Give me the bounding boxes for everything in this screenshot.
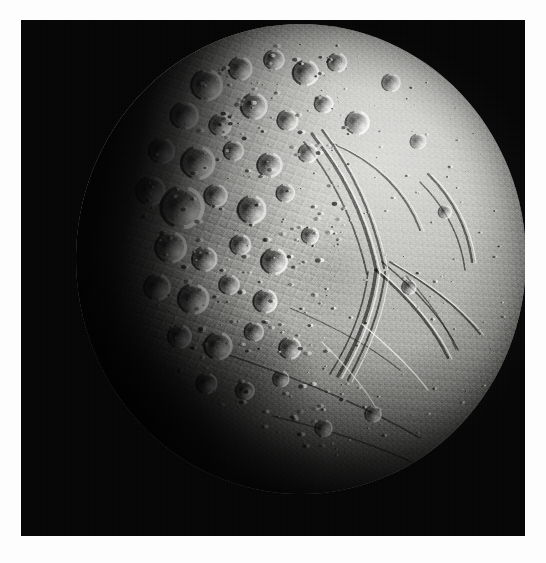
surface-knob-shadow: [251, 107, 253, 108]
surface-knob-shadow: [384, 210, 387, 212]
surface-knob-shadow: [164, 132, 165, 133]
surface-knob-shadow: [302, 443, 304, 445]
surface-knob-shadow: [338, 432, 339, 433]
surface-knob-shadow: [203, 167, 206, 169]
surface-knob-shadow: [213, 321, 214, 322]
surface-knob-shadow: [298, 347, 303, 351]
surface-knob-shadow: [407, 294, 409, 295]
surface-knob-shadow: [499, 341, 500, 342]
surface-knob-shadow: [245, 169, 249, 172]
surface-knob-shadow: [164, 254, 167, 256]
surface-knob-shadow: [338, 250, 339, 251]
surface-knob-shadow: [313, 232, 316, 235]
surface-knob-shadow: [228, 122, 233, 126]
surface-knob-shadow: [295, 334, 298, 336]
surface-knob-shadow: [451, 73, 453, 74]
surface-knob: [478, 95, 481, 98]
surface-knob-shadow: [403, 256, 405, 257]
surface-knob-shadow: [374, 177, 376, 178]
surface-knob-shadow: [401, 374, 403, 375]
surface-knob-shadow: [288, 283, 292, 286]
surface-knob-shadow: [456, 187, 458, 189]
surface-knob-shadow: [476, 89, 478, 90]
surface-knob-shadow: [172, 174, 173, 175]
surface-knob-shadow: [295, 114, 300, 117]
crater: [438, 206, 452, 219]
surface-knob-shadow: [321, 90, 323, 91]
surface-knob-shadow: [194, 260, 196, 262]
surface-knob-shadow: [311, 406, 316, 410]
surface-knob-shadow: [382, 218, 383, 219]
surface-knob-shadow: [282, 392, 287, 395]
surface-knob-shadow: [483, 322, 485, 323]
surface-knob-shadow: [325, 230, 330, 234]
surface-knob-shadow: [472, 334, 473, 335]
surface-knob-shadow: [252, 419, 254, 420]
surface-knob-shadow: [405, 175, 408, 177]
surface-knob-shadow: [391, 197, 394, 199]
surface-knob-shadow: [255, 203, 259, 206]
surface-knob-shadow: [314, 75, 317, 77]
surface-knob-shadow: [263, 238, 269, 242]
surface-knob-shadow: [493, 210, 495, 212]
surface-knob-shadow: [462, 389, 463, 390]
surface-knob-shadow: [432, 388, 435, 390]
surface-knob-shadow: [378, 130, 380, 132]
surface-knob-shadow: [335, 45, 338, 47]
surface-knob-shadow: [340, 232, 342, 233]
surface-knob-shadow: [268, 326, 272, 329]
surface-knob-shadow: [258, 175, 263, 178]
surface-knob-shadow: [213, 391, 215, 392]
surface-knob-shadow: [343, 88, 345, 90]
feature-group: [135, 44, 512, 468]
surface-knob-shadow: [247, 272, 250, 274]
surface-knob-shadow: [257, 140, 259, 141]
surface-knob-shadow: [305, 409, 307, 410]
crater: [227, 58, 252, 80]
surface-knob-shadow: [299, 308, 303, 311]
surface-knob-shadow: [238, 291, 243, 295]
surface-knob-shadow: [357, 57, 358, 58]
surface-knob-shadow: [247, 245, 249, 246]
surface-knob-shadow: [245, 346, 246, 347]
surface-knob-shadow: [325, 391, 328, 393]
crater: [169, 103, 198, 129]
surface-knob-shadow: [249, 224, 253, 227]
surface-knob-shadow: [227, 178, 229, 179]
surface-knob-shadow: [343, 347, 344, 348]
surface-knob-shadow: [308, 383, 313, 387]
surface-knob-shadow: [337, 244, 339, 246]
crater: [381, 74, 400, 91]
surface-knob-shadow: [450, 213, 451, 214]
surface-knob-shadow: [292, 58, 297, 62]
surface-knob-shadow: [258, 127, 260, 129]
surface-knob-shadow: [217, 301, 220, 303]
surface-knob-shadow: [480, 153, 482, 154]
surface-knob-shadow: [221, 117, 226, 121]
surface-knob-shadow: [270, 117, 272, 119]
surface-knob-shadow: [209, 133, 210, 134]
surface-knob-shadow: [167, 237, 171, 240]
surface-knob-shadow: [184, 100, 185, 101]
surface-knob-shadow: [184, 123, 186, 124]
surface-knob-shadow: [296, 410, 301, 414]
surface-knob-shadow: [221, 112, 226, 116]
surface-knob-shadow: [196, 129, 201, 133]
surface-knob-shadow: [168, 196, 169, 197]
surface-knob-shadow: [177, 370, 181, 373]
surface-knob-shadow: [307, 110, 309, 112]
crater: [263, 50, 284, 69]
surface-knob-shadow: [332, 202, 338, 206]
surface-knob-shadow: [268, 299, 273, 303]
surface-knob-shadow: [324, 75, 326, 76]
surface-knob-shadow: [322, 368, 325, 370]
surface-knob-shadow: [492, 256, 495, 258]
surface-knob-shadow: [364, 322, 367, 324]
surface-knob-shadow: [476, 95, 479, 97]
surface-knob-shadow: [240, 175, 241, 176]
surface-knob-shadow: [416, 432, 419, 434]
surface-knob-shadow: [150, 186, 153, 188]
surface-knob-shadow: [264, 49, 265, 50]
surface-knob-shadow: [406, 404, 407, 405]
surface-knob-shadow: [163, 336, 165, 338]
